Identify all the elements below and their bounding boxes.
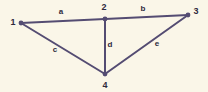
node-label-2: 2 [101, 2, 106, 12]
edge-label-e: e [155, 39, 160, 48]
graph-diagram: abcde 1234 [0, 0, 208, 92]
edge-label-a: a [59, 7, 64, 16]
graph-canvas: abcde 1234 [0, 0, 208, 92]
node-label-1: 1 [10, 17, 15, 27]
node-2 [103, 17, 108, 22]
node-1 [19, 21, 24, 26]
node-label-3: 3 [193, 6, 198, 16]
edge-label-c: c [53, 45, 58, 54]
edge-label-b: b [141, 4, 146, 13]
edge-label-d: d [108, 40, 113, 49]
node-4 [103, 72, 108, 77]
node-label-4: 4 [102, 80, 107, 90]
node-3 [186, 13, 191, 18]
